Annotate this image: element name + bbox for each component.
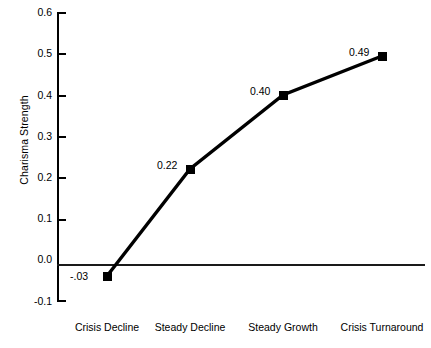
x-tick-label-steady-growth: Steady Growth [248, 321, 317, 333]
data-point-marker-3[interactable] [378, 52, 387, 61]
x-tick-label-crisis-turnaround: Crisis Turnaround [341, 321, 424, 333]
x-tick-label-steady-decline: Steady Decline [155, 321, 226, 333]
data-point-marker-1[interactable] [186, 165, 195, 174]
data-point-marker-2[interactable] [279, 91, 288, 100]
data-point-label-1: 0.22 [157, 160, 177, 171]
data-point-label-2: 0.40 [250, 86, 270, 97]
data-point-label-0: -.03 [70, 271, 88, 282]
chart-container: Charisma Strength 0.6 0.5 0.4 0.3 0.2 0.… [0, 0, 431, 348]
x-tick-label-crisis-decline: Crisis Decline [75, 321, 139, 333]
data-point-label-3: 0.49 [349, 47, 369, 58]
series-line-charisma-strength [107, 56, 382, 276]
data-point-marker-0[interactable] [103, 272, 112, 281]
